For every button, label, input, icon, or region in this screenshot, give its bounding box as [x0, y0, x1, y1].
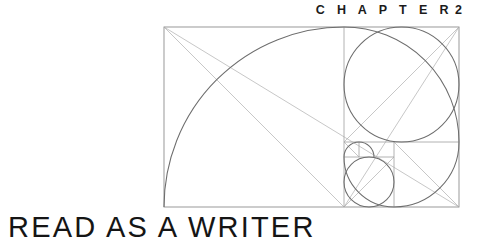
inscribed-circle-small	[344, 157, 394, 207]
diagonal-nested	[344, 142, 359, 157]
diagonal-square-1	[164, 27, 344, 207]
diagonal-nested	[344, 27, 459, 142]
diagonal-secondary	[344, 27, 459, 207]
page-canvas: C H A P T E R2 READ AS A WRITER	[0, 0, 484, 248]
chapter-label: C H A P T E R2	[316, 4, 462, 17]
chapter-label-number: 2	[453, 3, 462, 17]
fibonacci-spiral-path	[164, 27, 459, 207]
diagonal-main	[164, 27, 459, 207]
diagonal-nested	[344, 157, 394, 207]
diagonal-nested	[394, 142, 459, 207]
golden-rectangle-frame	[164, 27, 459, 207]
chapter-label-word: C H A P T E R	[316, 3, 453, 17]
page-title: READ AS A WRITER	[8, 213, 316, 242]
inscribed-circle-large	[344, 27, 459, 142]
